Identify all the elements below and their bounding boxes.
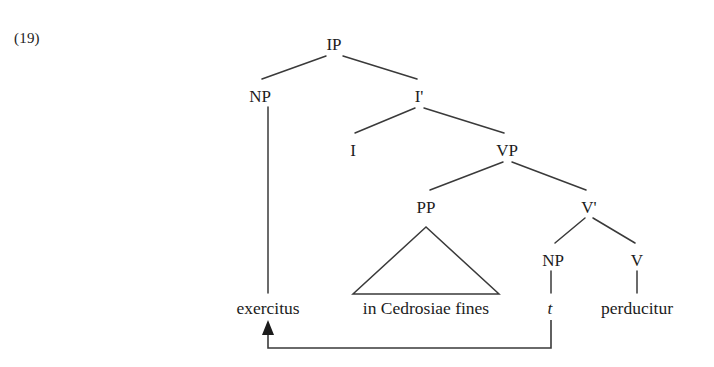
leaf-trace: t: [548, 300, 553, 318]
node-i: I: [350, 142, 356, 159]
movement-arrow: [262, 320, 551, 348]
triangle-shape: [353, 227, 499, 294]
node-ip: IP: [326, 36, 341, 53]
figure-container: (19) IP: [0, 0, 714, 367]
node-i-bar: I': [415, 88, 424, 105]
edge-vbar-np: [555, 218, 585, 243]
edge-vp-vbar: [512, 162, 586, 190]
node-pp: PP: [417, 199, 436, 216]
edge-ibar-vp: [424, 108, 504, 133]
leaf-in-cedrosiae-fines: in Cedrosiae fines: [363, 300, 489, 318]
node-v-bar: V': [581, 199, 596, 216]
tree-branches: [262, 56, 637, 293]
node-vp: VP: [496, 142, 518, 159]
edge-ip-ibar: [343, 56, 417, 79]
edge-ibar-i: [355, 108, 415, 133]
leaf-perducitur: perducitur: [601, 300, 673, 318]
arrowhead-icon: [262, 320, 274, 335]
edge-vp-pp: [430, 162, 503, 190]
edge-ip-np: [262, 56, 326, 79]
node-np-trace: NP: [542, 252, 564, 269]
movement-path: [268, 320, 551, 348]
node-np-subject: NP: [249, 88, 271, 105]
edge-vbar-v: [593, 218, 635, 243]
pp-triangle: [353, 227, 499, 294]
leaf-exercitus: exercitus: [236, 300, 299, 318]
node-v: V: [631, 252, 643, 269]
